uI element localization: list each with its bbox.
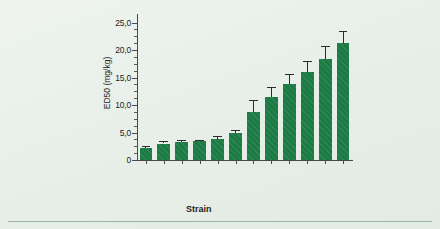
error-bar-cap <box>303 61 312 62</box>
bar-series <box>137 16 352 160</box>
x-tick <box>325 160 326 164</box>
x-tick <box>253 160 254 164</box>
bar[interactable] <box>319 59 332 160</box>
plot-area <box>137 16 352 160</box>
y-tick-label: 25,0 <box>115 18 131 28</box>
bar[interactable] <box>175 142 188 160</box>
y-tick-label: 5,0 <box>120 128 131 138</box>
x-axis-line <box>137 160 353 161</box>
y-tick-label: 10,0 <box>115 100 131 110</box>
error-bar-cap <box>142 146 151 147</box>
bar-group[interactable] <box>301 16 314 160</box>
figure-panel: 05,010,015,020,025,0 ED50 (mg/kg) BUBBDA… <box>0 0 440 229</box>
bar-group[interactable] <box>157 16 170 160</box>
x-tick <box>200 160 201 164</box>
bar[interactable] <box>301 72 314 160</box>
y-axis-title-wrap: ED50 (mg/kg) <box>88 40 102 140</box>
bar[interactable] <box>247 112 260 160</box>
bar-group[interactable] <box>265 16 278 160</box>
x-tick <box>307 160 308 164</box>
bar-group[interactable] <box>229 16 242 160</box>
bar-group[interactable] <box>193 16 206 160</box>
y-tick-label: 20,0 <box>115 45 131 55</box>
bar-group[interactable] <box>283 16 296 160</box>
error-bar-stem <box>289 74 290 84</box>
y-axis-title: ED50 (mg/kg) <box>102 33 112 133</box>
x-tick <box>218 160 219 164</box>
error-bar-cap <box>231 130 240 131</box>
bar[interactable] <box>337 43 350 160</box>
bar-group[interactable] <box>140 16 153 160</box>
bar-group[interactable] <box>247 16 260 160</box>
error-bar-stem <box>307 61 308 72</box>
x-tick <box>236 160 237 164</box>
error-bar-stem <box>343 31 344 43</box>
error-bar-cap <box>321 46 330 47</box>
bar[interactable] <box>193 141 206 160</box>
bar[interactable] <box>229 133 242 160</box>
y-tick-label: 0 <box>126 155 131 165</box>
bar-group[interactable] <box>319 16 332 160</box>
error-bar-cap <box>249 100 258 101</box>
x-tick <box>343 160 344 164</box>
error-bar-cap <box>285 74 294 75</box>
error-bar-cap <box>339 31 348 32</box>
error-bar-cap <box>213 136 222 137</box>
x-tick <box>182 160 183 164</box>
x-tick <box>146 160 147 164</box>
bar[interactable] <box>140 148 153 160</box>
error-bar-cap <box>177 140 186 141</box>
y-tick-major <box>132 160 137 161</box>
y-tick-label: 15,0 <box>115 73 131 83</box>
error-bar-cap <box>195 140 204 141</box>
x-tick <box>289 160 290 164</box>
error-bar-stem <box>253 100 254 113</box>
x-tick <box>164 160 165 164</box>
bar[interactable] <box>265 97 278 160</box>
x-axis-title: Strain <box>186 204 212 214</box>
x-tick <box>271 160 272 164</box>
footer-divider <box>8 221 432 222</box>
error-bar-cap <box>267 87 276 88</box>
bar[interactable] <box>157 144 170 160</box>
error-bar-cap <box>159 141 168 142</box>
bar-group[interactable] <box>175 16 188 160</box>
bar-group[interactable] <box>337 16 350 160</box>
bar[interactable] <box>211 139 224 160</box>
bar[interactable] <box>283 84 296 160</box>
error-bar-stem <box>271 87 272 97</box>
error-bar-stem <box>325 46 326 60</box>
bar-group[interactable] <box>211 16 224 160</box>
